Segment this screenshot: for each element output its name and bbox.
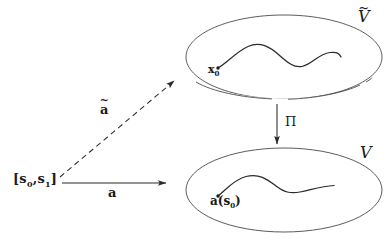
basepoint-base-close: ): [235, 194, 241, 208]
interval-label-close: ]: [51, 171, 57, 186]
covering-space-ellipse: [186, 15, 382, 100]
interval-label: [s0,s1]: [13, 172, 57, 188]
covering-space-tilde-accent: ~: [358, 1, 369, 14]
interval-label-mid: ,s: [33, 171, 45, 186]
projection-label: Π: [285, 115, 296, 128]
lift-a-tilde-accent: ~: [100, 96, 109, 107]
covering-space-label: ~V: [358, 9, 370, 25]
interval-label-open: [s: [13, 171, 27, 186]
basepoint-lift-sub: 0: [215, 69, 220, 78]
basepoint-lift-label: x0: [208, 64, 219, 77]
lift-a-label: ~a: [100, 103, 108, 116]
base-space-label: V: [360, 145, 372, 161]
map-a-label: a: [108, 186, 116, 199]
diagram-canvas: [s0,s1] a ~a Π ~V V x0 a(s0): [0, 0, 392, 241]
lift-a-arrow: [60, 81, 174, 177]
lifted-path-curve: [216, 44, 341, 69]
base-space-ellipse: [186, 148, 382, 232]
diagram-vector-layer: [0, 0, 392, 241]
basepoint-base-label: a(s0): [210, 195, 241, 209]
basepoint-base-open: a(s: [210, 194, 230, 208]
